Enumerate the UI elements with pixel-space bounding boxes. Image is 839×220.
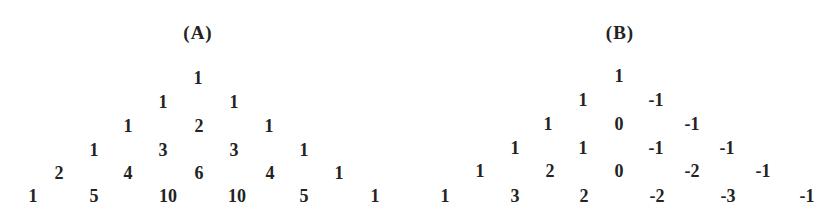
cell: 4	[266, 163, 275, 183]
triangle-b-label: (B)	[606, 22, 634, 44]
triangle-b-row-5: 1 2 0 -2 -1	[420, 161, 839, 185]
cell: -1	[685, 114, 700, 134]
cell: 1	[194, 68, 203, 88]
cell: 1	[615, 66, 624, 86]
cell: -2	[685, 161, 700, 181]
cell: 2	[580, 186, 589, 206]
cell: 1	[230, 92, 239, 112]
cell: 1	[476, 161, 485, 181]
cell: -1	[756, 161, 771, 181]
cell: 1	[544, 114, 553, 134]
triangle-a-row-2: 1 1	[0, 92, 420, 116]
cell: 1	[511, 138, 520, 158]
cell: 0	[615, 161, 624, 181]
cell: 1	[579, 90, 588, 110]
cell: 3	[511, 186, 520, 206]
triangle-b-row-1: 1	[420, 66, 839, 90]
cell: -1	[800, 186, 815, 206]
cell: 1	[265, 116, 274, 136]
cell: 1	[124, 116, 133, 136]
cell: 3	[230, 140, 239, 160]
cell: -3	[721, 186, 736, 206]
cell: 2	[546, 161, 555, 181]
triangle-b-row-3: 1 0 -1	[420, 114, 839, 138]
cell: 1	[371, 186, 380, 206]
cell: 0	[615, 114, 624, 134]
cell: 1	[159, 92, 168, 112]
cell: 2	[55, 163, 64, 183]
triangle-a-row-6: 1 5 10 10 5 1	[0, 186, 420, 210]
triangle-a-row-5: 2 4 6 4 1	[0, 163, 420, 187]
cell: 1	[29, 186, 38, 206]
triangle-b-row-6: 1 3 2 -2 -3 -1	[420, 186, 839, 210]
triangle-a-row-1: 1	[0, 68, 420, 92]
cell: -1	[649, 90, 664, 110]
cell: 1	[441, 186, 450, 206]
cell: 6	[195, 163, 204, 183]
cell: -1	[649, 138, 664, 158]
triangle-b-row-2: 1 -1	[420, 90, 839, 114]
cell: 4	[124, 163, 133, 183]
cell: 1	[300, 140, 309, 160]
cell: 10	[159, 186, 177, 206]
cell: -1	[720, 138, 735, 158]
cell: 10	[228, 186, 246, 206]
cell: 1	[335, 163, 344, 183]
cell: 5	[300, 186, 309, 206]
triangle-b-row-4: 1 1 -1 -1	[420, 138, 839, 162]
triangle-b: (B) 1 1 -1 1 0 -1 1 1 -1 -1 1 2 0 -2 -1 …	[420, 0, 839, 220]
triangle-a-label: (A)	[183, 22, 212, 44]
cell: 3	[159, 140, 168, 160]
triangle-a: (A) 1 1 1 1 2 1 1 3 3 1 2 4 6 4 1 1 5 10…	[0, 0, 420, 220]
cell: 1	[579, 138, 588, 158]
triangle-a-row-4: 1 3 3 1	[0, 140, 420, 164]
triangle-a-row-3: 1 2 1	[0, 116, 420, 140]
cell: 5	[90, 186, 99, 206]
cell: -2	[650, 186, 665, 206]
cell: 1	[90, 140, 99, 160]
cell: 2	[195, 116, 204, 136]
